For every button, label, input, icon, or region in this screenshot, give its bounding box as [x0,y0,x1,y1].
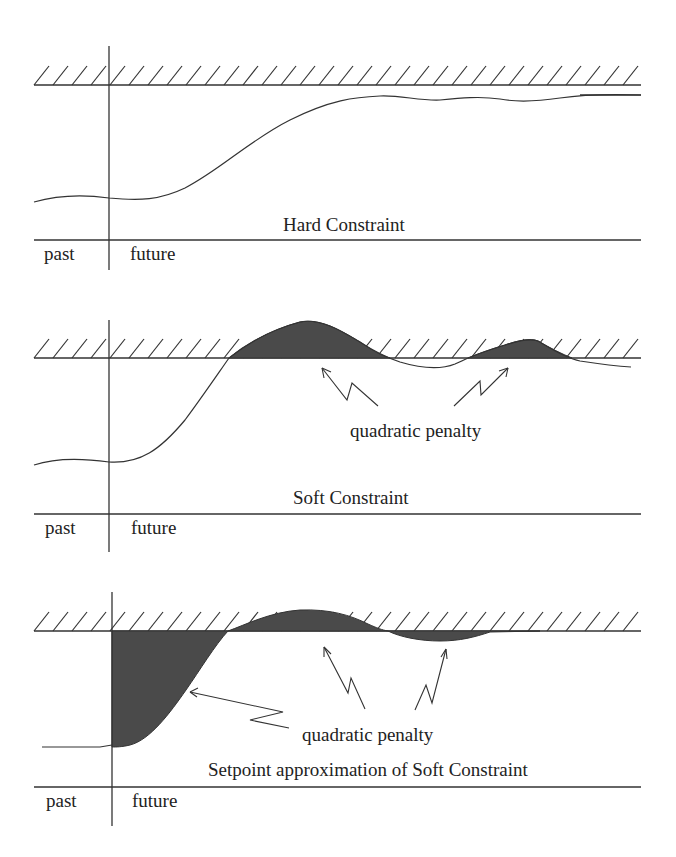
hatch-mark [528,66,543,85]
hatch-mark [129,612,144,631]
panel-title: Setpoint approximation of Soft Constrain… [208,759,529,780]
hatch-mark [148,66,163,85]
hatch-mark [129,66,144,85]
hatch-mark [205,612,220,631]
hatch-mark [243,66,258,85]
hatch-mark [72,339,87,358]
hatch-mark [72,66,87,85]
hatch-mark [281,66,296,85]
past-trajectory [42,745,112,747]
hatch-mark [433,339,448,358]
penalty-annotation: quadratic penalty [350,420,482,441]
hatch-mark [414,612,429,631]
hatch-mark [604,66,619,85]
hatch-mark [452,339,467,358]
hatch-mark [509,66,524,85]
hatch-mark [623,339,638,358]
hatch-mark [433,612,448,631]
past-label: past [46,790,77,811]
hatch-mark [414,66,429,85]
panel-title: Soft Constraint [293,487,409,508]
hatch-mark [205,66,220,85]
future-label: future [131,517,176,538]
zigzag-arrow [324,647,365,709]
future-label: future [130,243,175,264]
hatch-mark [34,66,49,85]
penalty-region [112,631,228,747]
past-label: past [45,517,76,538]
hatch-mark [395,612,410,631]
hatch-mark [72,612,87,631]
hatch-mark [91,612,106,631]
hatch-mark [471,612,486,631]
hatch-mark [148,612,163,631]
hatch-mark [319,66,334,85]
hatch-mark [34,339,49,358]
panel-setpoint-approximation: quadratic penalty Setpoint approximation… [34,592,641,826]
hatch-marks [34,66,638,85]
panel-soft-constraint: quadratic penalty Soft Constraint past f… [34,320,641,552]
hatch-mark [528,612,543,631]
zigzag-arrow [415,649,446,710]
hatch-mark [205,339,220,358]
hatch-mark [604,339,619,358]
panel-title: Hard Constraint [283,214,406,235]
hatch-mark [186,612,201,631]
penalty-region [229,321,390,358]
penalty-region [388,631,540,641]
hatch-mark [604,612,619,631]
hatch-mark [357,66,372,85]
arrowhead [324,647,331,657]
hatch-mark [452,612,467,631]
hatch-mark [433,66,448,85]
hatch-mark [53,66,68,85]
hatch-mark [186,66,201,85]
hatch-mark [509,612,524,631]
hatch-mark [566,339,581,358]
hatch-mark [376,66,391,85]
hatch-mark [186,339,201,358]
hatch-mark [585,612,600,631]
hatch-mark [148,339,163,358]
hatch-mark [395,66,410,85]
hatch-mark [91,66,106,85]
hatch-mark [91,339,106,358]
hatch-mark [471,66,486,85]
hatch-mark [414,339,429,358]
hatch-mark [53,612,68,631]
constraint-diagram: Hard Constraint past future quadratic pe… [0,0,676,857]
hatch-mark [547,66,562,85]
hatch-mark [53,339,68,358]
hatch-mark [452,66,467,85]
output-trajectory [34,95,641,202]
hatch-mark [566,612,581,631]
hatch-mark [224,66,239,85]
hatch-mark [167,339,182,358]
hatch-mark [566,66,581,85]
hatch-mark [167,66,182,85]
hatch-mark [110,66,125,85]
hatch-mark [547,612,562,631]
hatch-mark [395,339,410,358]
hatch-mark [585,339,600,358]
hatch-mark [167,612,182,631]
hatch-mark [129,339,144,358]
hatch-mark [300,66,315,85]
hatch-mark [623,66,638,85]
hatch-mark [623,612,638,631]
hatch-mark [338,66,353,85]
constraint-boundary-hatched [34,66,641,85]
zigzag-arrow [454,368,508,406]
zigzag-arrow [322,368,378,406]
hatch-mark [262,66,277,85]
penalty-annotation: quadratic penalty [302,724,434,745]
past-label: past [44,243,75,264]
hatch-mark [490,612,505,631]
hatch-mark [110,339,125,358]
zigzag-arrow [190,692,289,728]
panel-hard-constraint: Hard Constraint past future [34,46,641,270]
future-label: future [132,790,177,811]
hatch-mark [490,66,505,85]
hatch-mark [585,66,600,85]
hatch-mark [34,612,49,631]
